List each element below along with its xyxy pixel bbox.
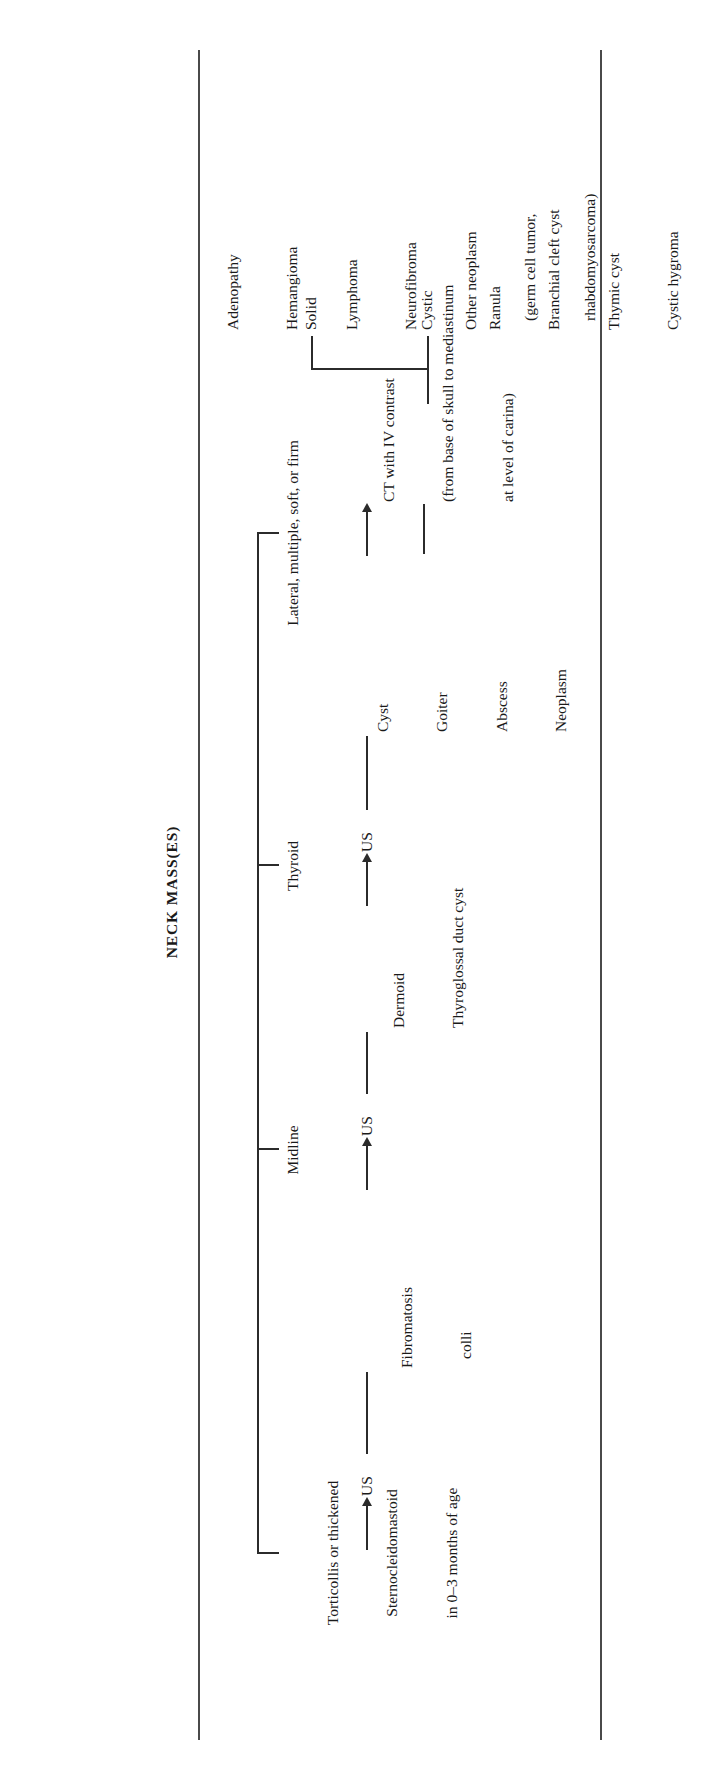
arrow-shaft-thyroid (366, 860, 368, 906)
outcome-connector-midline (366, 1032, 368, 1094)
solid-item-other-neoplasm-note1: (germ cell tumor, (520, 90, 540, 330)
outcome-neoplasm: Neoplasm (551, 602, 571, 732)
solid-item-lymphoma: Lymphoma (341, 90, 361, 330)
branch-left-criterion: Torticollis or thickened Sternocleidomas… (283, 1422, 501, 1684)
solid-item-neurofibroma: Neurofibroma (401, 90, 421, 330)
arrow-head-thyroid (362, 853, 372, 862)
outcome-connector-left (366, 1372, 368, 1454)
branch-midline-modality: US (357, 1096, 377, 1136)
branch-stub-thyroid (257, 864, 279, 866)
branch-thyroid-criterion: Thyroid (283, 806, 303, 926)
cystic-solid-bracket-arm-cystic (427, 336, 429, 370)
chart-title: NECK MASS(ES) (163, 82, 181, 1702)
arrow-head-lateral (362, 503, 372, 512)
cystic-solid-bracket-spine (311, 368, 429, 370)
solid-item-hemangioma: Hemangioma (282, 90, 302, 330)
branch-stub-lateral (257, 532, 279, 534)
branch-left-criterion-line1: Torticollis or thickened (322, 1422, 342, 1684)
branch-lateral-criterion: Lateral, multiple, soft, or firm (283, 390, 303, 676)
rotated-figure-container: NECK MASS(ES) Torticollis or thickened S… (161, 82, 543, 1702)
branch-thyroid-outcomes: Cyst Goiter Abscess Neoplasm (333, 602, 611, 732)
outcome-fibromatosis: Fibromatosis (396, 1218, 416, 1368)
branch-stub-midline (257, 1148, 279, 1150)
branch-midline-criterion: Midline (283, 1080, 303, 1220)
neck-mass-algorithm-figure: NECK MASS(ES) Torticollis or thickened S… (161, 82, 543, 1702)
outcome-thyroglossal-duct-cyst: Thyroglossal duct cyst (448, 838, 468, 1028)
cystic-item-cystic-hygroma: Cystic hygroma (663, 90, 683, 330)
solid-item-other-neoplasm: Other neoplasm (460, 90, 480, 330)
branch-left-criterion-line3: in 0–3 months of age (441, 1422, 461, 1684)
branch-left-outcomes: Fibromatosis colli (357, 1218, 516, 1368)
branch-stub-left (257, 1552, 279, 1554)
branch-left-criterion-line2: Sternocleidomastoid (382, 1422, 402, 1684)
arrow-head-left (362, 1497, 372, 1506)
outcome-cyst: Cyst (372, 602, 392, 732)
solid-item-other-neoplasm-note2: rhabdomyosarcoma) (579, 90, 599, 330)
branch-midline-outcomes: Dermoid Thyroglossal duct cyst (349, 838, 508, 1028)
arrow-head-midline (362, 1137, 372, 1146)
outcome-dermoid: Dermoid (388, 838, 408, 1028)
outcome-goiter: Goiter (432, 602, 452, 732)
cystic-solid-bracket-stem (423, 504, 425, 554)
branch-thyroid-modality: US (357, 812, 377, 852)
solid-list: Adenopathy Hemangioma Lymphoma Neurofibr… (183, 90, 639, 330)
outcome-fibromatosis-colli: colli (456, 1218, 476, 1368)
branch-left-modality: US (357, 1456, 377, 1496)
outcome-connector-thyroid (366, 736, 368, 810)
cystic-solid-bracket-arm-solid (311, 336, 313, 370)
branch-bus-horizontal (257, 534, 259, 1554)
cystic-solid-bracket-feed (427, 368, 429, 404)
solid-item-adenopathy: Adenopathy (222, 90, 242, 330)
arrow-shaft-left (366, 1504, 368, 1550)
outcome-abscess: Abscess (491, 602, 511, 732)
arrow-shaft-lateral (366, 510, 368, 556)
arrow-shaft-midline (366, 1144, 368, 1190)
